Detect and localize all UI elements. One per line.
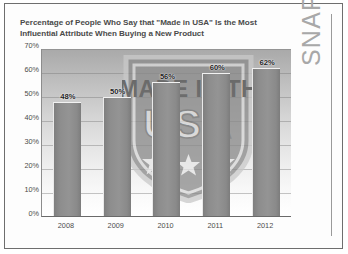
plot-area: MADE IN TH USA 48% 50 — [41, 49, 291, 217]
y-axis-tick: 70% — [17, 42, 39, 50]
x-axis-tick: 2011 — [192, 219, 239, 233]
bar-value-label: 60% — [193, 63, 241, 72]
bar-slot: 50% — [93, 49, 140, 216]
y-axis-tick: 30% — [17, 138, 39, 146]
bar-value-label: 50% — [94, 87, 142, 96]
x-axis-tick: 2010 — [142, 219, 189, 233]
page-title: Percentage of People Who Say that "Made … — [20, 17, 268, 39]
y-axis-tick: 50% — [17, 90, 39, 98]
y-axis-tick: 60% — [17, 66, 39, 74]
bar-slot: 48% — [43, 49, 90, 216]
y-axis-tick: 0% — [17, 210, 39, 218]
bar-value-label: 48% — [44, 92, 92, 101]
bar-slot: 56% — [143, 49, 190, 216]
chart-screenshot: Percentage of People Who Say that "Made … — [0, 0, 348, 254]
bar-value-label: 56% — [143, 72, 191, 81]
bar-slot: 62% — [242, 49, 289, 216]
bar-series: 48% 50% 56% 60% — [42, 49, 291, 216]
x-axis-tick: 2009 — [92, 219, 139, 233]
chart-plot-wrapper: 70% 60% 50% 40% 30% 20% 10% 0% MADE IN T… — [17, 46, 292, 236]
bar-slot: 60% — [193, 49, 240, 216]
bar-value-label: 62% — [243, 58, 291, 67]
bar: 50% — [103, 97, 131, 216]
snapshot-watermark-label: SNAPSHOT — [296, 0, 326, 66]
snapshot-divider — [331, 14, 332, 236]
y-axis-tick: 40% — [17, 114, 39, 122]
x-axis: 2008 2009 2010 2011 2012 — [41, 219, 290, 233]
x-axis-tick: 2008 — [42, 219, 89, 233]
bar: 48% — [53, 102, 81, 217]
x-axis-tick: 2012 — [241, 219, 288, 233]
y-axis-tick: 20% — [17, 162, 39, 170]
bar: 60% — [202, 73, 230, 216]
bar: 56% — [152, 82, 180, 216]
y-axis-tick: 10% — [17, 186, 39, 194]
bar: 62% — [252, 68, 280, 216]
y-axis: 70% 60% 50% 40% 30% 20% 10% 0% — [17, 46, 39, 216]
